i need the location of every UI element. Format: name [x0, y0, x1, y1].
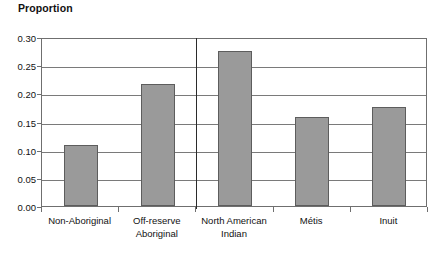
y-tick-mark	[37, 151, 41, 152]
x-tick-label: North American Indian	[195, 215, 272, 240]
x-tick-mark	[41, 207, 42, 212]
y-tick-label: 0.10	[0, 145, 36, 156]
bar-chart: Proportion 0.000.050.100.150.200.250.30 …	[0, 0, 444, 259]
x-tick-mark	[118, 207, 119, 212]
x-tick-mark	[350, 207, 351, 212]
y-tick-label: 0.00	[0, 202, 36, 213]
y-tick-mark	[37, 66, 41, 67]
y-tick-mark	[37, 123, 41, 124]
x-tick-label: Métis	[273, 215, 350, 228]
x-tick-label: Non-Aboriginal	[41, 215, 118, 228]
x-tick-mark	[195, 207, 196, 212]
x-tick-label: Off-reserve Aboriginal	[118, 215, 195, 240]
y-tick-label: 0.15	[0, 117, 36, 128]
y-tick-mark	[37, 94, 41, 95]
y-tick-mark	[37, 179, 41, 180]
y-tick-mark	[37, 38, 41, 39]
x-tick-mark	[427, 207, 428, 212]
x-tick-label: Inuit	[350, 215, 427, 228]
y-tick-label: 0.30	[0, 33, 36, 44]
x-tick-mark	[273, 207, 274, 212]
y-tick-label: 0.25	[0, 61, 36, 72]
y-tick-label: 0.05	[0, 173, 36, 184]
y-tick-label: 0.20	[0, 89, 36, 100]
